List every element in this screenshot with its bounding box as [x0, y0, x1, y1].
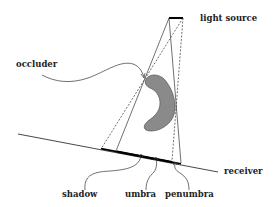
light-source-label: light source: [200, 14, 257, 23]
shadow-pointer: [85, 155, 141, 190]
occluder-label: occluder: [16, 60, 57, 69]
penumbra-label: penumbra: [165, 190, 214, 199]
ray-dashed-right: [172, 18, 183, 161]
penumbra-pointer: [175, 163, 189, 190]
shadow-label: shadow: [62, 190, 97, 199]
occluder-pointer: [42, 63, 144, 81]
umbra-region: [117, 152, 172, 163]
soft-shadow-diagram: light source occluder receiver shadow um…: [0, 0, 273, 207]
umbra-label: umbra: [125, 190, 156, 199]
occluder-shape: [144, 75, 175, 131]
umbra-pointer: [146, 158, 157, 190]
receiver-label: receiver: [224, 167, 263, 176]
